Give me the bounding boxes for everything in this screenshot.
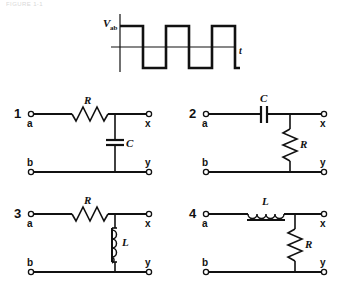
circuit-1-terminal-x-label: x: [145, 118, 151, 129]
figure-caption: FIGURE 1-1: [6, 1, 43, 7]
circuit-3: 3 a R x L b y: [2, 196, 178, 291]
circuit-1-terminal-a[interactable]: [28, 111, 33, 116]
circuit-4-inductor-coil: [248, 214, 284, 219]
circuit-2-resistor-label: R: [299, 138, 307, 150]
circuit-1-resistor-label: R: [83, 94, 91, 106]
circuit-1-terminal-x[interactable]: [146, 111, 151, 116]
circuit-2: 2 a C x R b y: [177, 96, 353, 191]
circuit-2-terminal-x-label: x: [320, 118, 326, 129]
circuit-2-terminal-y[interactable]: [321, 169, 326, 174]
circuit-3-terminal-x[interactable]: [146, 211, 151, 216]
circuit-3-number: 3: [14, 206, 21, 221]
circuit-3-terminal-y-label: y: [145, 257, 151, 268]
circuit-3-terminal-b[interactable]: [28, 269, 33, 274]
circuit-4: 4 a L x R b y: [177, 196, 353, 291]
circuit-1-terminal-b[interactable]: [28, 169, 33, 174]
circuit-4-resistor-label: R: [304, 238, 312, 250]
circuit-2-number: 2: [189, 106, 196, 121]
circuit-1-number: 1: [14, 106, 21, 121]
circuit-3-terminal-y[interactable]: [146, 269, 151, 274]
circuit-4-terminal-x-label: x: [320, 218, 326, 229]
waveform-x-axis-label: t: [239, 45, 243, 56]
circuit-3-terminal-a-label: a: [27, 218, 33, 229]
circuit-4-terminal-x[interactable]: [321, 211, 326, 216]
circuit-3-terminal-x-label: x: [145, 218, 151, 229]
circuit-4-number: 4: [189, 206, 197, 221]
circuit-4-inductor-label: L: [261, 195, 269, 207]
circuit-2-capacitor-label: C: [260, 92, 268, 104]
circuit-4-resistor-symbol: [288, 229, 302, 261]
circuit-4-terminal-a[interactable]: [203, 211, 208, 216]
circuit-3-terminal-a[interactable]: [28, 211, 33, 216]
circuit-1-terminal-y-label: y: [145, 157, 151, 168]
circuit-3-terminal-b-label: b: [27, 257, 33, 268]
circuit-3-resistor-symbol: [72, 207, 108, 221]
circuit-2-terminal-b-label: b: [202, 157, 208, 168]
circuit-1-terminal-y[interactable]: [146, 169, 151, 174]
circuit-4-terminal-b-label: b: [202, 257, 208, 268]
circuit-2-terminal-x[interactable]: [321, 111, 326, 116]
circuit-1-terminal-a-label: a: [27, 118, 33, 129]
circuit-1-resistor-symbol: [72, 107, 108, 121]
circuit-2-terminal-a-label: a: [202, 118, 208, 129]
circuit-1-terminal-b-label: b: [27, 157, 33, 168]
circuit-4-terminal-y-label: y: [320, 257, 326, 268]
circuit-2-resistor-symbol: [283, 129, 297, 161]
circuit-1-capacitor-label: C: [126, 137, 134, 149]
waveform-y-axis-label-subscript: ab: [110, 24, 118, 32]
circuit-3-resistor-label: R: [83, 194, 91, 206]
circuit-4-terminal-b[interactable]: [203, 269, 208, 274]
circuit-4-terminal-y[interactable]: [321, 269, 326, 274]
figure-page: FIGURE 1-1 V ab t 1 a R: [0, 0, 353, 300]
waveform-plot: V ab t: [98, 10, 253, 78]
circuit-4-terminal-a-label: a: [202, 218, 208, 229]
circuit-2-terminal-y-label: y: [320, 157, 326, 168]
circuit-2-terminal-b[interactable]: [203, 169, 208, 174]
circuit-1: 1 a R x C b y: [2, 96, 178, 191]
circuit-3-inductor-label: L: [121, 236, 129, 248]
circuit-2-terminal-a[interactable]: [203, 111, 208, 116]
